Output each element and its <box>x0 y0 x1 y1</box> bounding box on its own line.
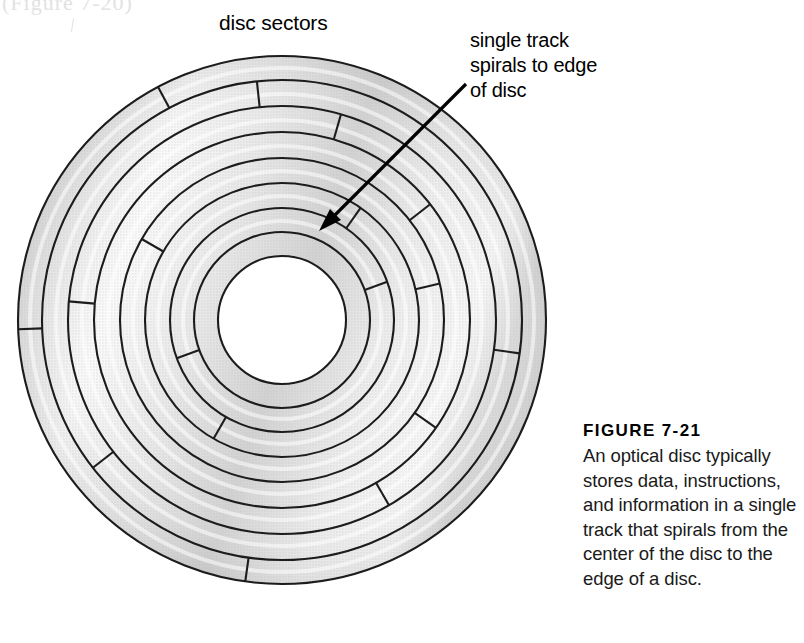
disc-sectors-label: disc sectors <box>219 11 327 35</box>
callout-line-3: of disc <box>470 78 597 103</box>
figure-caption: FIGURE 7-21 An optical disc typically st… <box>583 421 798 591</box>
figure-caption-body: An optical disc typically stores data, i… <box>583 444 798 591</box>
sector-divider-line <box>18 328 42 329</box>
disc-center-hole <box>218 256 346 384</box>
callout-line-1: single track <box>470 28 597 53</box>
callout-line-2: spirals to edge <box>470 53 597 78</box>
figure-caption-title: FIGURE 7-21 <box>583 421 798 441</box>
single-track-callout: single track spirals to edge of disc <box>470 28 597 103</box>
figure-page: (Figure 7-20) <box>0 0 804 643</box>
